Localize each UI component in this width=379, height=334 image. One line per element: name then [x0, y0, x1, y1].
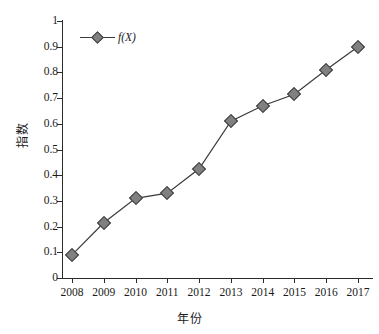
- x-axis-title: 年份: [0, 309, 379, 326]
- y-tick-label: 0.6: [44, 118, 58, 130]
- x-tick-label: 2011: [156, 287, 179, 299]
- y-tick-label: 0: [52, 272, 58, 284]
- y-tick-label: 1: [52, 15, 58, 27]
- x-tick-mark: [72, 278, 73, 283]
- x-tick-mark: [104, 278, 105, 283]
- x-tick-label: 2012: [188, 287, 211, 299]
- x-tick-label: 2015: [283, 287, 306, 299]
- x-tick-label: 2010: [124, 287, 147, 299]
- legend-diamond-marker-icon: [91, 31, 104, 44]
- x-tick-label: 2014: [251, 287, 274, 299]
- y-tick-label: 0.5: [44, 144, 58, 156]
- x-tick-mark: [136, 278, 137, 283]
- y-axis-title: 指数: [13, 122, 30, 148]
- x-tick-label: 2013: [219, 287, 242, 299]
- line-chart: 指数 年份 00.10.20.30.40.50.60.70.80.91 2008…: [0, 0, 379, 334]
- plot-area: [62, 21, 372, 278]
- y-tick-label: 0.7: [44, 92, 58, 104]
- y-tick-label: 0.2: [44, 221, 58, 233]
- x-tick-label: 2017: [347, 287, 370, 299]
- x-tick-mark: [167, 278, 168, 283]
- y-tick-label: 0.8: [44, 67, 58, 79]
- x-tick-mark: [231, 278, 232, 283]
- x-tick-label: 2016: [315, 287, 338, 299]
- y-tick-label: 0.9: [44, 41, 58, 53]
- y-tick-label: 0.4: [44, 169, 58, 181]
- series-line: [62, 21, 372, 278]
- x-tick-mark: [358, 278, 359, 283]
- legend-label: f(X): [118, 31, 136, 43]
- x-tick-mark: [294, 278, 295, 283]
- x-tick-mark: [326, 278, 327, 283]
- y-tick-label: 0.1: [44, 247, 58, 259]
- x-tick-label: 2009: [92, 287, 115, 299]
- x-tick-label: 2008: [61, 287, 84, 299]
- x-tick-mark: [199, 278, 200, 283]
- legend: f(X): [80, 31, 136, 43]
- y-tick-label: 0.3: [44, 195, 58, 207]
- x-tick-mark: [263, 278, 264, 283]
